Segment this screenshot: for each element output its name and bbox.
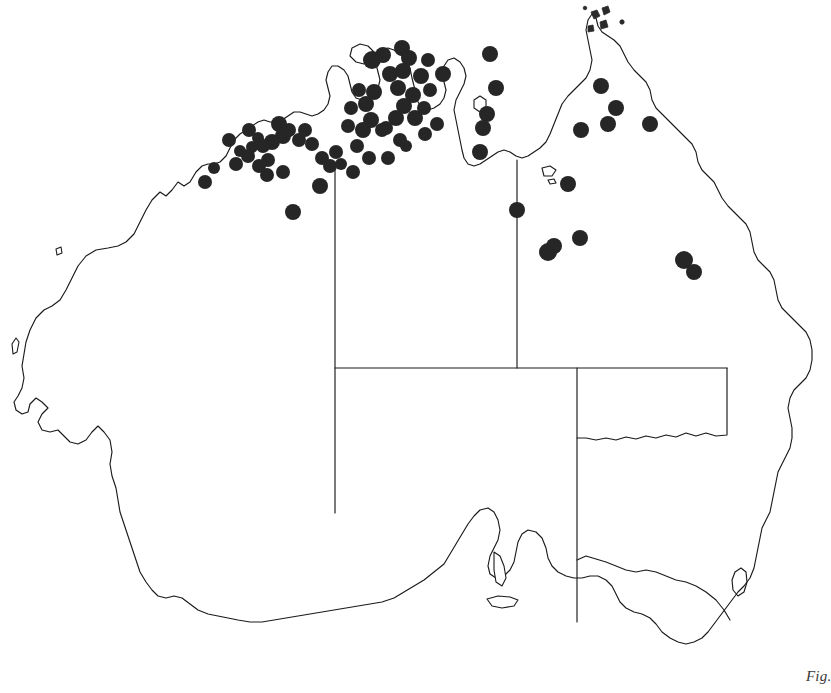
occurrence-dot xyxy=(435,66,451,82)
australia-mainland-coastline xyxy=(14,14,812,644)
occurrence-dot xyxy=(222,133,236,147)
occurrence-dot xyxy=(208,162,220,174)
occurrence-dot xyxy=(390,80,406,96)
occurrence-dot xyxy=(430,117,444,131)
occurrence-dot xyxy=(475,120,491,136)
occurrence-dot xyxy=(642,116,658,132)
occurrence-dot xyxy=(400,140,412,152)
bernier-dorre-island xyxy=(56,247,62,255)
occurrence-dot xyxy=(329,145,343,159)
occurrence-dot xyxy=(546,238,562,254)
occurrence-dot xyxy=(271,116,287,132)
torres-strait-island-4 xyxy=(588,25,594,32)
occurrence-dot xyxy=(312,178,328,194)
occurrence-dot xyxy=(417,101,431,115)
occurrence-dot xyxy=(350,139,364,153)
occurrence-dot xyxy=(488,80,504,96)
occurrence-dot xyxy=(366,84,382,100)
occurrence-dot xyxy=(413,68,429,84)
figure-caption: Fig. xyxy=(806,668,831,685)
occurrence-dot xyxy=(375,47,391,63)
occurrence-dot xyxy=(344,101,358,115)
occurrence-dot xyxy=(234,145,246,157)
occurrence-dot xyxy=(573,122,589,138)
gulf-small-island xyxy=(548,179,556,184)
occurrence-dot xyxy=(276,165,290,179)
occurrence-dot xyxy=(198,175,212,189)
distribution-map-figure: Fig. xyxy=(0,0,831,693)
occurrence-dot xyxy=(482,46,498,62)
occurrence-dot xyxy=(381,151,395,165)
occurrence-dot xyxy=(335,158,347,170)
occurrence-dot xyxy=(352,83,366,97)
dirk-hartog-island xyxy=(12,338,19,354)
occurrence-dot xyxy=(572,230,588,246)
occurrence-dot xyxy=(305,137,319,151)
occurrence-dot xyxy=(346,165,360,179)
occurrence-dot xyxy=(375,123,389,137)
occurrence-dot xyxy=(421,53,435,67)
occurrence-dot xyxy=(472,144,488,160)
occurrence-dot xyxy=(560,176,576,192)
occurrence-dot xyxy=(479,106,495,122)
australia-map-svg xyxy=(0,0,831,693)
occurrence-dot xyxy=(593,78,609,94)
occurrence-dot xyxy=(260,168,274,182)
torres-strait-island-2 xyxy=(602,6,610,15)
occurrence-dot xyxy=(418,127,432,141)
occurrence-dot xyxy=(285,204,301,220)
occurrence-dot xyxy=(341,119,355,133)
occurrence-dot xyxy=(686,264,702,280)
occurrence-dot xyxy=(362,151,376,165)
occurrence-dot xyxy=(229,157,243,171)
occurrence-dot xyxy=(394,40,410,56)
occurrence-dot xyxy=(608,100,624,116)
kangaroo-island xyxy=(487,596,518,608)
occurrence-dot xyxy=(323,159,337,173)
torres-strait-island-5 xyxy=(620,20,624,24)
occurrence-dot xyxy=(509,202,525,218)
occurrence-dot xyxy=(600,116,616,132)
occurrence-dot xyxy=(298,123,312,137)
occurrence-dot xyxy=(261,153,275,167)
occurrence-dot xyxy=(252,132,264,144)
occurrence-dot xyxy=(423,83,437,97)
torres-strait-island-6 xyxy=(583,6,587,10)
torres-strait-island-3 xyxy=(600,20,608,29)
